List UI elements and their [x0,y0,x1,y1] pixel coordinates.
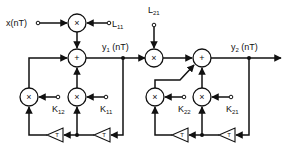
input-L21-label: L21 [148,5,160,16]
input-K11-label: K11 [100,104,113,115]
input-L11-terminal [107,21,111,25]
delay-icon: T [180,132,184,138]
multiply-icon: × [74,18,79,28]
input-K22-terminal [182,95,186,99]
wire-feedback-down-2 [236,58,249,135]
delay-icon: T [55,132,59,138]
input-K21-terminal [229,95,233,99]
input-L21-terminal [152,23,156,27]
wire-multK12-to-adder1 [29,58,67,88]
multiply-icon: × [152,92,157,102]
output-y1-label: y1 (nT) [102,42,129,53]
wire-multK22-to-adder2 [155,65,194,88]
input-x-label: x(nT) [6,18,27,28]
input-x-terminal [36,21,40,25]
multiply-icon: × [199,92,204,102]
wire-delay1a-to-multK12 [29,107,47,135]
add-icon: + [199,53,204,63]
output-y2-label: y2 (nT) [231,42,258,53]
multiply-icon: × [151,53,156,63]
multiply-icon: × [26,92,31,102]
section-2: L21 × + y2 (nT) T T × K22 [145,5,281,142]
input-K12-terminal [56,95,60,99]
section-1: x(nT) L11 × + y1 (nT) T T × [6,14,145,142]
input-K22-label: K22 [178,104,191,115]
signal-flow-diagram: x(nT) L11 × + y1 (nT) T T × [0,0,287,151]
input-L11-label: L11 [112,19,124,30]
wire-feedback-down-1 [111,58,123,135]
multiply-icon: × [74,92,79,102]
add-icon: + [74,53,79,63]
input-K11-terminal [104,95,108,99]
wire-delay2a-to-multK22 [155,107,172,135]
delay-icon: T [227,132,231,138]
delay-icon: T [102,132,106,138]
input-K21-label: K21 [226,104,239,115]
input-K12-label: K12 [52,104,65,115]
